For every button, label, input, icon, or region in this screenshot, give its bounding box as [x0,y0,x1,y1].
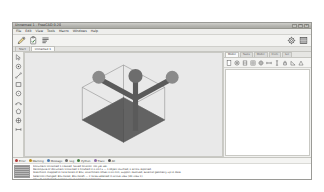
navigation-axis-cross[interactable] [37,52,223,150]
console-log-lines[interactable]: Document Unnamed 1 created. Saved locati… [31,164,311,179]
pencil-icon[interactable] [16,36,26,46]
console-filter-python-label: Python [81,159,90,163]
console-filter-log-label: Log [69,159,74,163]
grid-panel-icon[interactable] [298,36,308,46]
console-filter-warning-label: Warning [33,159,44,163]
main-toolbar [13,35,311,47]
document-tab-start[interactable]: Start [15,46,30,51]
main-body-row: Model Tasks Model Elem Sel [13,52,311,157]
dock-tab-elem[interactable]: Elem [269,52,281,57]
dock-tab-model-0[interactable]: Model [225,52,239,57]
console-filter-log[interactable]: Log [65,159,74,163]
circle-icon[interactable] [14,89,23,98]
log-dot-icon [65,159,68,162]
cursor-arrow-icon[interactable] [14,53,23,62]
constraint-icon[interactable] [14,116,23,125]
console-filter-trace[interactable]: Trace [94,159,105,163]
model-tree-list[interactable] [225,69,310,156]
console-filter-message-label: Message [51,159,63,163]
console-body: Document Unnamed 1 created. Saved locati… [13,164,311,179]
angle-icon[interactable] [289,59,297,67]
right-dock-panel: Model Tasks Model Elem Sel [223,52,311,157]
dock-tab-tasks[interactable]: Tasks [240,52,253,57]
list-lines-icon[interactable] [40,36,50,46]
console-preview-thumbnail [14,165,30,178]
menu-item-edit[interactable]: Edit [25,29,31,34]
console-filter-all[interactable]: All [108,159,115,163]
dimension-icon[interactable] [14,125,23,134]
radius-icon[interactable] [297,59,305,67]
grid-icon[interactable] [249,59,257,67]
rectangle-icon[interactable] [14,80,23,89]
menu-item-help[interactable]: Help [91,29,98,34]
toolbar-left-group [16,36,50,46]
maximize-button[interactable]: □ [298,24,303,28]
crosshair-icon[interactable] [257,59,265,67]
menu-item-view[interactable]: View [36,29,44,34]
error-dot-icon [15,159,18,162]
arc-icon[interactable] [14,98,23,107]
report-view-console: Error Warning Message Log Python [13,157,311,179]
console-filter-error[interactable]: Error [15,159,26,163]
dock-tab-model-1[interactable]: Model [254,52,268,57]
console-filter-error-label: Error [19,159,26,163]
document-tab-unnamed-1[interactable]: Unnamed 1 [31,46,55,51]
all-dot-icon [108,159,111,162]
window-controls: – □ ✕ [292,24,309,28]
trace-dot-icon [94,159,97,162]
console-filter-message[interactable]: Message [47,159,63,163]
minimize-button[interactable]: – [292,24,297,28]
message-dot-icon [47,159,50,162]
clipboard-check-icon[interactable] [28,36,38,46]
application-window: Unnamed 1 - FreeCAD 0.20 – □ ✕ File Edit… [12,22,312,180]
gear-icon[interactable] [286,36,296,46]
close-button[interactable]: ✕ [304,24,309,28]
dock-tab-sel[interactable]: Sel [282,52,292,57]
console-filter-python[interactable]: Python [77,159,90,163]
line-icon[interactable] [14,71,23,80]
console-filter-trace-label: Trace [98,159,105,163]
three-d-viewport[interactable] [24,52,223,157]
menu-item-file[interactable]: File [16,29,21,34]
console-filter-all-label: All [112,159,115,163]
window-title: Unnamed 1 - FreeCAD 0.20 [15,23,61,28]
console-log-line: View fit performed; camera set to isomet… [33,178,309,179]
menu-item-tools[interactable]: Tools [47,29,55,34]
console-filter-warning[interactable]: Warning [29,159,44,163]
python-dot-icon [77,159,80,162]
sheet-icon[interactable] [225,59,233,67]
lock-icon[interactable] [281,59,289,67]
horizontal-icon[interactable] [265,59,273,67]
menu-item-windows[interactable]: Windows [73,29,87,34]
polygon-icon[interactable] [14,107,23,116]
menu-item-macro[interactable]: Macro [59,29,69,34]
warning-dot-icon [29,159,32,162]
screenshot-page: Unnamed 1 - FreeCAD 0.20 – □ ✕ File Edit… [0,0,324,192]
target-icon[interactable] [233,59,241,67]
dock-toolbar [224,58,311,68]
cut-icon[interactable] [241,59,249,67]
left-tool-rail [13,52,24,157]
vertical-icon[interactable] [273,59,281,67]
point-icon[interactable] [14,62,23,71]
toolbar-right-group [286,36,308,46]
